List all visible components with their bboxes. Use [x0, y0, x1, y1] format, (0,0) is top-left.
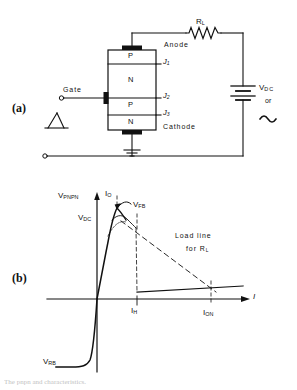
loadline-rl-sub: L: [206, 248, 209, 253]
ion-sub: ON: [205, 311, 213, 317]
layer-label-n1: N: [128, 76, 133, 84]
current-axis-arrow: [241, 296, 250, 302]
voltage-axis-arrow: [94, 192, 100, 200]
anode-label: Anode: [164, 41, 189, 48]
load-line-label-line1: Load line: [175, 232, 212, 239]
reverse-breakdown-label: VRB: [43, 358, 56, 367]
gate-label: Gate: [63, 86, 82, 93]
loadline-rl-base: for R: [186, 245, 206, 252]
junction-j2-sub: 2: [167, 94, 170, 100]
breakover-knee: [117, 208, 126, 220]
junction-label-j2: J2: [163, 92, 170, 100]
source-or-label: or: [265, 97, 271, 104]
supply-voltage-label: VDC: [78, 214, 91, 223]
resistor-label-sub: L: [202, 20, 205, 26]
layer-label-n2: N: [128, 118, 133, 126]
layer-label-p2: P: [128, 101, 133, 109]
trigger-pulse-icon: [45, 113, 68, 128]
load-resistor-label: RL: [196, 18, 205, 27]
panel-b-label: (b): [12, 272, 27, 284]
voltage-axis-label: VPNPN: [58, 192, 78, 201]
switching-current-label: IO: [105, 190, 111, 199]
junction-label-j1: J1: [163, 58, 170, 66]
load-line-label-line2: for RL: [186, 245, 208, 254]
vrb-sub: RB: [48, 360, 56, 366]
io-sub: O: [107, 192, 111, 198]
current-axis-label: I: [253, 293, 255, 301]
cathode-label: Cathode: [163, 123, 196, 130]
ac-sine-icon: [260, 116, 276, 122]
junction-label-j3: J3: [163, 109, 170, 117]
holding-current-dropline: [136, 228, 137, 292]
source-label: VDC: [259, 84, 274, 93]
forward-breakover-label: VFB: [133, 201, 145, 210]
cathode-contact-pad: [122, 130, 142, 135]
anode-contact-pad: [122, 46, 142, 51]
gate-terminal-node: [59, 96, 63, 100]
reverse-breakdown-branch: [56, 299, 97, 367]
load-resistor-icon: [186, 28, 221, 39]
gate-contact-pad: [104, 92, 109, 104]
source-label-sub: DC: [264, 86, 274, 92]
figure-caption: The pnpn and characteristics.: [4, 378, 86, 386]
ih-sub: H: [133, 309, 137, 315]
panel-a-label: (a): [12, 102, 26, 114]
voltage-axis-label-sub: PNPN: [63, 194, 78, 200]
on-state-branch: [137, 286, 243, 292]
holding-current-label: IH: [131, 307, 137, 316]
dc-source-icon: [231, 86, 255, 100]
layer-label-p1: P: [128, 52, 133, 60]
figure-pnpn-thyristor: [0, 0, 297, 390]
on-state-current-label: ION: [203, 309, 213, 318]
bottom-terminal-node: [43, 154, 47, 158]
vdc-sub: DC: [83, 216, 91, 222]
junction-j3-sub: 3: [167, 111, 170, 117]
junction-j1-sub: 1: [167, 60, 170, 66]
vfb-sub: FB: [138, 203, 145, 209]
forward-blocking-branch: [97, 208, 117, 299]
